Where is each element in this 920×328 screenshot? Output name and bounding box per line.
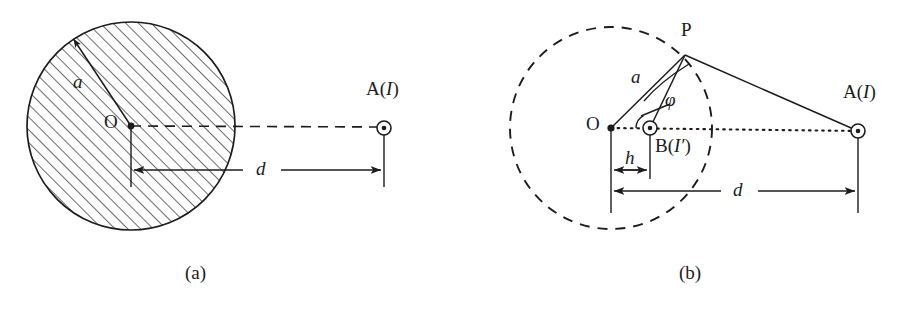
panel-b <box>510 27 865 229</box>
panel-a-point-label-A: A(I) <box>366 79 399 98</box>
panel-b-caption: (b) <box>679 263 701 282</box>
panel-a-dimension-label-d: d <box>256 159 266 178</box>
panel-b-point-label-P: P <box>681 20 692 39</box>
panel-a-point-label-A-suffix: ) <box>392 78 398 99</box>
panel-b-point-label-A: A(I) <box>843 82 876 101</box>
figure-canvas <box>0 0 920 328</box>
point-O-marker <box>607 124 614 131</box>
point-A-marker-dot <box>856 129 861 134</box>
panel-b-point-label-A-prefix: A( <box>843 81 863 102</box>
panel-a-radius-label-a: a <box>73 72 83 91</box>
figure-root: O a A(I) d (a) O P a φ B(I′) A(I) h d (b… <box>0 0 920 328</box>
panel-b-radius-label-a: a <box>631 67 641 86</box>
panel-b-point-label-O: O <box>586 114 600 133</box>
angle-arc-phi <box>636 116 644 128</box>
panel-b-dimension-label-d: d <box>733 180 743 199</box>
point-B-marker-dot <box>648 126 653 131</box>
panel-b-point-label-B-suffix: ) <box>684 135 690 156</box>
segment-P-to-A <box>685 55 858 131</box>
panel-a-point-label-A-prefix: A( <box>366 78 386 99</box>
axis-line-O-to-A <box>131 126 384 127</box>
panel-b-point-label-B: B(I′) <box>655 136 691 155</box>
panel-b-point-label-B-current: I′ <box>674 135 684 156</box>
panel-a-point-label-O: O <box>104 112 118 131</box>
panel-a <box>27 22 391 230</box>
panel-a-caption: (a) <box>185 263 206 282</box>
point-A-marker-dot <box>382 126 387 131</box>
panel-b-point-label-B-prefix: B( <box>655 135 674 156</box>
panel-b-angle-label-phi: φ <box>665 90 676 109</box>
point-O-marker <box>128 123 135 130</box>
panel-b-dimension-label-h: h <box>625 148 635 167</box>
panel-b-point-label-A-suffix: ) <box>869 81 875 102</box>
